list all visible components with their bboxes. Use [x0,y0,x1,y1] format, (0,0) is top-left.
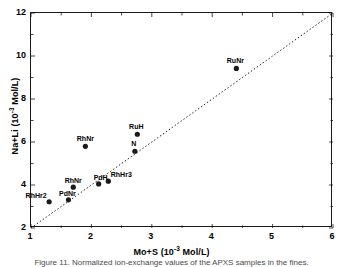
data-point-label-pdnr-1: PdNr [59,190,76,197]
one-to-one-dotted-line [31,13,333,228]
data-point-pdh-3 [96,181,101,186]
y-tick-10: 10 [10,50,26,60]
data-point-rhhr2-0 [47,199,52,204]
y-tick-12: 12 [10,7,26,17]
y-tick-4: 4 [10,179,26,189]
data-point-label-runr-8: RuNr [227,57,244,64]
y-tick-6: 6 [10,136,26,146]
data-point-label-pdh-3: PdH [94,174,108,181]
x-axis-tick-labels: 123456 [0,231,343,245]
data-point-label-rhnr-5: RhNr [77,135,94,142]
data-point-pdnr-1 [66,197,71,202]
data-point-label-n-6: N [131,140,136,147]
figure-caption: Figure 11. Normalized ion-exchange value… [0,258,343,267]
data-point-runr-8 [234,66,239,71]
plot-canvas [31,13,333,228]
x-tick-5: 5 [262,231,282,241]
x-tick-3: 3 [141,231,161,241]
data-point-label-rhnr-2: RhNr [65,177,82,184]
data-point-label-ruh-7: RuH [129,123,143,130]
data-point-label-rhhr3-4: RhHr3 [111,171,132,178]
x-axis-title-tail: Mol/L) [180,247,210,257]
x-tick-1: 1 [20,231,40,241]
data-point-rhnr-5 [83,144,88,149]
data-point-n-6 [132,149,137,154]
plot-area: RhHr2PdNrRhNrPdHRhHr3RhNrNRuHRuNr [30,12,332,227]
x-tick-2: 2 [80,231,100,241]
y-tick-8: 8 [10,93,26,103]
x-axis-title-base: Mo+S (10 [133,247,174,257]
data-point-label-rhhr2-0: RhHr2 [26,192,47,199]
y-axis-tick-labels: 24681012 [0,0,26,264]
data-point-ruh-7 [135,132,140,137]
x-tick-4: 4 [201,231,221,241]
x-tick-6: 6 [322,231,342,241]
x-axis-title: Mo+S (10-3 Mol/L) [0,245,343,257]
